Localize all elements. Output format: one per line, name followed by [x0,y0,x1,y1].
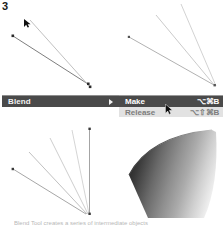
path-line [181,4,216,86]
figure-caption: Blend Tool creates a series of intermedi… [14,219,214,227]
menu-item-release-label: Release [125,108,155,117]
blend-menu[interactable]: Blend Make ⌥⌘B Release ⌥⇧⌘B [0,95,223,117]
anchor-point [12,168,14,170]
blend-submenu[interactable]: Make ⌥⌘B Release ⌥⇧⌘B [119,95,223,117]
anchor-point [87,83,90,86]
anchor-point [128,36,130,38]
menu-item-make-label: Make [125,97,145,106]
artwork-three-paths-fan [124,4,223,90]
path-line [30,20,90,87]
menu-item-blend[interactable]: Blend [2,95,119,107]
path-line [72,130,89,214]
artwork-blended-fan-paths [4,126,112,218]
figure-canvas: 3 Blend Mak [0,0,223,227]
anchor-point [214,84,216,86]
menu-item-release-shortcut: ⌥⇧⌘B [190,108,219,117]
anchor-point [88,128,90,130]
path-line [13,169,86,214]
cone-fill [129,130,217,218]
path-line [50,138,88,214]
menu-item-blend-label: Blend [8,98,31,106]
artwork-two-selected-paths [4,8,112,90]
menu-item-release[interactable]: Release ⌥⇧⌘B [119,107,223,118]
menu-item-make-shortcut: ⌥⌘B [197,97,219,106]
anchor-point [89,86,92,89]
anchor-point [88,213,90,215]
path-line [129,37,214,85]
anchor-point [12,35,15,38]
chevron-right-icon [109,99,113,105]
artwork-blended-gradient-cone [126,126,223,218]
path-line [156,15,215,86]
menu-item-make[interactable]: Make ⌥⌘B [119,96,223,107]
